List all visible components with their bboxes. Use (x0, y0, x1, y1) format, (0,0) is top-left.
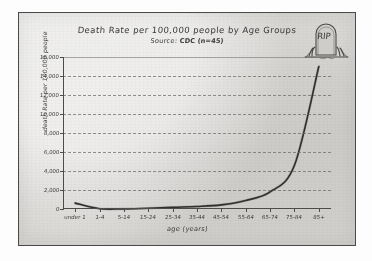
chart-paper-panel: Death Rate per 100,000 people by Age Gro… (18, 12, 356, 246)
x-tick (221, 208, 222, 212)
gridline (63, 114, 331, 115)
x-tick-label: 55-64 (237, 214, 254, 220)
gridline (63, 76, 331, 77)
y-tick (60, 114, 64, 115)
y-tick (60, 133, 64, 134)
y-tick (60, 57, 64, 58)
gridline (63, 133, 331, 134)
x-tick (197, 208, 198, 212)
x-tick (75, 208, 76, 212)
gridline (63, 95, 331, 96)
gridline (63, 57, 331, 58)
x-tick-label: 35-44 (189, 214, 206, 220)
x-tick (124, 208, 125, 212)
y-tick (60, 190, 64, 191)
chart-screenshot: Death Rate per 100,000 people by Age Gro… (0, 0, 372, 261)
gridline (63, 152, 331, 153)
x-tick (246, 208, 247, 212)
y-tick (60, 209, 64, 210)
tombstone-doodle: RIP (303, 17, 349, 61)
x-axis-title-text: age (years) (166, 225, 208, 233)
gridline (63, 190, 331, 191)
x-tick (148, 208, 149, 212)
x-tick (294, 208, 295, 212)
y-axis-title-text: death Rate per 100,000 people (41, 31, 48, 132)
x-tick (100, 208, 101, 212)
curve-line-shadow (75, 67, 319, 210)
x-tick (319, 208, 320, 212)
x-tick-label: 15-24 (140, 214, 157, 220)
y-tick-label: 2,000 (43, 187, 59, 193)
y-tick (60, 171, 64, 172)
x-tick-label: 1-4 (95, 214, 105, 220)
y-tick (60, 152, 64, 153)
y-tick-label: 0 (55, 206, 59, 212)
x-tick-label: 85+ (313, 214, 325, 220)
tombstone-label: RIP (317, 31, 332, 41)
y-tick (60, 76, 64, 77)
subtitle-prefix: Source: (150, 37, 180, 45)
x-tick-label: 45-54 (213, 214, 230, 220)
subtitle-source: CDC (179, 37, 195, 45)
y-tick-label: 4,000 (43, 168, 59, 174)
plot-area: 02,0004,0006,0008,00010,00012,00014,0001… (63, 57, 331, 209)
x-tick (173, 208, 174, 212)
x-tick-label: 75-84 (286, 214, 303, 220)
curve-line (75, 67, 319, 210)
gridline (63, 171, 331, 172)
x-axis-title: age (years) (19, 225, 355, 233)
x-tick-label: 25-34 (164, 214, 181, 220)
x-tick-label: 65-74 (262, 214, 279, 220)
x-tick-label: under 1 (64, 214, 86, 220)
y-tick-label: 6,000 (43, 149, 59, 155)
y-tick (60, 95, 64, 96)
x-tick-label: 5-14 (117, 214, 130, 220)
x-tick (270, 208, 271, 212)
y-axis-title: death Rate per 100,000 people (41, 31, 48, 131)
subtitle-note: (n=45) (197, 37, 224, 45)
